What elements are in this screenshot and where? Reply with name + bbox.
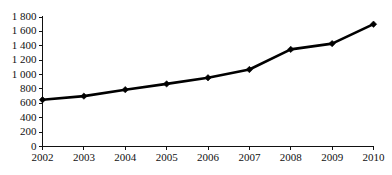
series-line	[43, 24, 374, 100]
x-tick-label: 2007	[238, 151, 261, 163]
y-tick-label: 1 000	[12, 68, 37, 80]
x-axis: 200220032004200520062007200820092010	[32, 147, 386, 163]
y-tick-label: 800	[20, 82, 37, 94]
x-tick-label: 2006	[197, 151, 220, 163]
y-axis: 02004006008001 0001 2001 4001 6001 800	[12, 10, 43, 152]
data-series	[43, 24, 374, 100]
x-tick-label: 2004	[114, 151, 137, 163]
y-tick-label: 400	[20, 111, 37, 123]
data-point-marker	[81, 93, 87, 99]
y-tick-label: 1 200	[12, 53, 37, 65]
x-tick-label: 2005	[156, 151, 179, 163]
y-tick-label: 200	[20, 125, 37, 137]
data-point-marker	[205, 75, 211, 81]
x-tick-label: 2002	[32, 151, 54, 163]
y-tick-label: 600	[20, 96, 37, 108]
data-point-marker	[163, 81, 169, 87]
y-tick-label: 1 800	[12, 10, 37, 22]
chart-canvas: 02004006008001 0001 2001 4001 6001 800 2…	[0, 0, 392, 175]
x-tick-label: 2010	[363, 151, 386, 163]
x-tick-label: 2008	[280, 151, 303, 163]
data-point-marker	[39, 97, 45, 103]
data-markers	[39, 21, 376, 103]
x-tick-label: 2009	[321, 151, 344, 163]
x-tick-label: 2003	[73, 151, 96, 163]
y-tick-label: 1 600	[12, 24, 37, 36]
line-chart: 02004006008001 0001 2001 4001 6001 800 2…	[0, 0, 392, 175]
data-point-marker	[122, 86, 128, 92]
y-tick-label: 1 400	[12, 39, 37, 51]
